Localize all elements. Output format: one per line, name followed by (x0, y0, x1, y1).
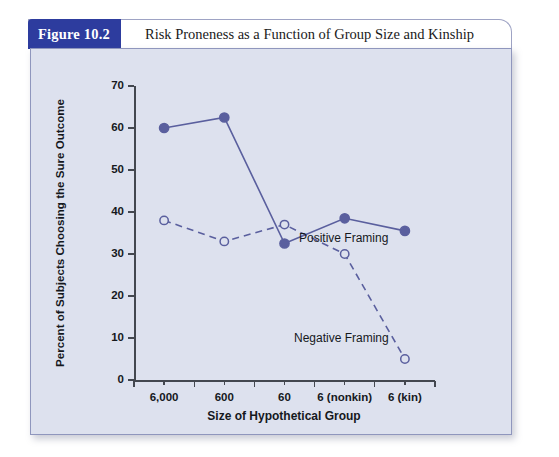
chart-body: 010203040506070 6,000600606 (nonkin)6 (k… (30, 48, 512, 435)
data-point (400, 226, 409, 235)
data-point (160, 216, 168, 224)
data-point (220, 113, 229, 122)
data-point (220, 237, 228, 245)
data-point (340, 214, 349, 223)
figure-title-bar: Figure 10.2 Risk Proneness as a Function… (28, 19, 512, 48)
plot-area: 010203040506070 6,000600606 (nonkin)6 (k… (31, 49, 513, 436)
data-point (160, 123, 169, 132)
data-point (280, 239, 289, 248)
data-point (280, 220, 288, 228)
data-point (401, 355, 409, 363)
series-label-positive-framing: Positive Framing (299, 231, 388, 245)
series-plot (31, 49, 513, 436)
figure-title: Risk Proneness as a Function of Group Si… (145, 20, 474, 49)
figure-panel: Figure 10.2 Risk Proneness as a Function… (28, 19, 512, 435)
series-label-negative-framing: Negative Framing (294, 331, 389, 345)
data-point (341, 250, 349, 258)
figure-number-badge: Figure 10.2 (28, 19, 121, 49)
